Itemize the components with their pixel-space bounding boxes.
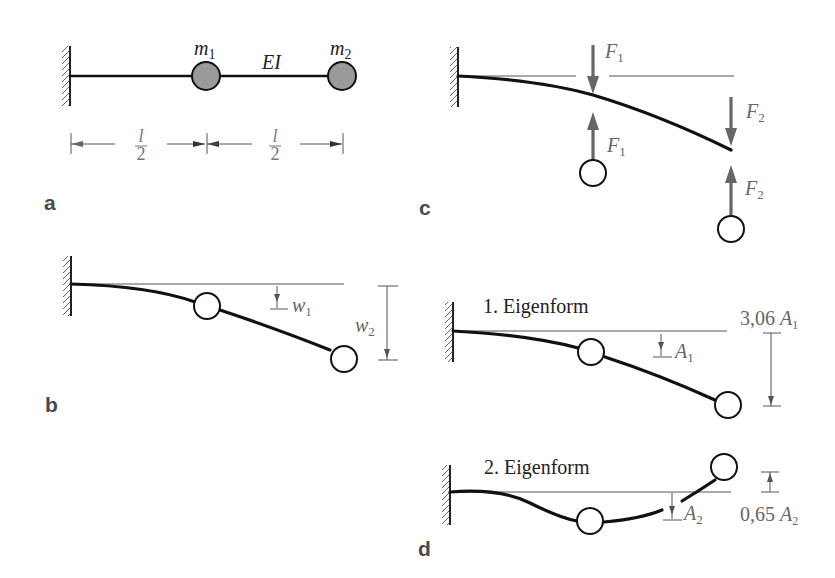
- mass-2: [331, 346, 357, 372]
- fixed-support-icon: [63, 256, 71, 316]
- mode-2-title: 2. Eigenform: [484, 456, 590, 479]
- svg-text:2: 2: [137, 144, 146, 164]
- mass-1-label: m1: [194, 37, 215, 62]
- panel-label-c: c: [419, 196, 431, 219]
- deflected-beam: [450, 491, 577, 521]
- a2-scaled-dimension: 0,65 A2: [740, 472, 798, 528]
- mass-2-label: m2: [330, 37, 351, 62]
- deflected-beam-segment: [604, 510, 662, 522]
- fixed-support-icon: [442, 465, 450, 525]
- mass-1: [580, 160, 606, 186]
- svg-text:l: l: [138, 126, 143, 146]
- svg-text:l: l: [272, 126, 277, 146]
- panel-label-a: a: [44, 191, 56, 214]
- mass-1: [192, 62, 220, 90]
- mass-2: [718, 216, 744, 242]
- svg-text:A2: A2: [682, 502, 703, 527]
- svg-text:F2: F2: [744, 177, 764, 202]
- panel-label-d: d: [418, 537, 431, 560]
- a2-dimension: A2: [663, 493, 703, 527]
- panel-label-b: b: [45, 393, 58, 416]
- svg-text:F1: F1: [606, 134, 626, 159]
- mass-2: [328, 62, 356, 90]
- panel-d-mode-1: 1. Eigenform A1 3,06 A1: [445, 295, 798, 418]
- panel-d-mode-2: 2. Eigenform A2 0,65 A2 d: [418, 454, 798, 560]
- force-f2-up: F2: [725, 165, 764, 215]
- mass-1: [577, 508, 603, 534]
- force-f1-up: F1: [587, 112, 626, 160]
- eigenform-figure: m1 m2 EI l 2 l 2 a: [0, 0, 835, 578]
- mass-2: [711, 454, 737, 480]
- svg-text:w2: w2: [355, 314, 375, 339]
- dimension-right: l 2: [207, 126, 343, 164]
- mass-1: [194, 293, 220, 319]
- svg-text:2: 2: [271, 144, 280, 164]
- force-f2-down: F2: [725, 97, 765, 146]
- dimension-left: l 2: [71, 126, 205, 164]
- mass-1: [578, 339, 604, 365]
- svg-text:F1: F1: [604, 40, 624, 65]
- deflected-beam-segment: [220, 310, 330, 350]
- svg-text:A1: A1: [673, 340, 694, 365]
- w1-dimension: w1: [270, 286, 312, 319]
- deflected-beam-segment: [682, 480, 715, 501]
- mass-2: [715, 392, 741, 418]
- svg-text:w1: w1: [292, 294, 312, 319]
- a1-scaled-dimension: 3,06 A1: [740, 307, 798, 406]
- panel-b: w1 w2 b: [45, 256, 398, 416]
- panel-c: F1 F1 F2 F2 c: [419, 40, 765, 242]
- svg-text:0,65 A2: 0,65 A2: [740, 503, 798, 528]
- force-f1-down: F1: [587, 40, 624, 94]
- deflected-beam: [71, 284, 195, 302]
- stiffness-label: EI: [261, 51, 282, 73]
- svg-text:3,06 A1: 3,06 A1: [740, 307, 798, 332]
- deflected-beam: [453, 331, 578, 348]
- panel-a: m1 m2 EI l 2 l 2 a: [44, 37, 356, 214]
- mode-1-title: 1. Eigenform: [483, 295, 589, 318]
- deflected-beam-segment: [605, 357, 715, 400]
- w2-dimension: w2: [355, 286, 398, 360]
- svg-text:F2: F2: [745, 100, 765, 125]
- a1-dimension: A1: [653, 334, 694, 365]
